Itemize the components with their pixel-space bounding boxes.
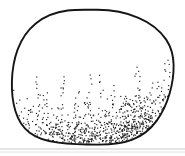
stipple-dot <box>100 139 101 140</box>
stipple-dot <box>53 137 54 138</box>
stipple-dot <box>40 134 41 135</box>
stipple-dot <box>64 140 65 141</box>
stipple-dot <box>155 120 156 121</box>
stipple-dot <box>85 135 86 136</box>
stipple-dot <box>23 123 24 124</box>
stipple-dot <box>142 107 143 108</box>
stipple-dot <box>79 116 80 117</box>
stipple-dot <box>61 132 62 133</box>
stipple-dot <box>88 142 89 143</box>
stipple-dot <box>74 129 75 130</box>
stipple-dot <box>99 142 100 143</box>
stipple-dot <box>59 129 60 130</box>
stipple-dot <box>146 122 147 123</box>
stipple-dot <box>121 106 122 107</box>
stipple-dot <box>57 116 58 117</box>
stipple-dot <box>85 128 86 129</box>
stipple-dot <box>24 108 25 109</box>
stipple-dot <box>134 126 135 127</box>
stipple-dot <box>143 124 144 125</box>
stipple-dot <box>149 99 150 100</box>
stipple-dot <box>88 138 89 139</box>
stipple-dot <box>52 133 53 134</box>
stipple-dot <box>62 104 63 105</box>
stipple-dot <box>51 108 52 109</box>
stipple-dot <box>105 133 106 134</box>
stipple-dot <box>84 130 85 131</box>
stipple-dot <box>136 127 137 128</box>
stipple-dot <box>137 126 138 127</box>
stipple-dot <box>147 106 148 107</box>
stipple-dot <box>114 128 115 129</box>
stipple-dot <box>131 129 132 130</box>
stipple-dot <box>157 110 158 111</box>
stipple-dot <box>116 133 117 134</box>
stipple-dot <box>169 64 170 65</box>
stipple-dot <box>96 124 97 125</box>
stipple-dot <box>146 119 147 120</box>
stipple-dot <box>83 140 84 141</box>
stipple-dot <box>126 121 127 122</box>
stipple-dot <box>122 137 123 138</box>
stipple-dot <box>134 108 135 109</box>
stipple-dot <box>71 139 72 140</box>
stipple-dot <box>92 121 93 122</box>
stipple-dot <box>78 122 79 123</box>
stipple-dot <box>90 78 91 79</box>
stipple-dot <box>131 125 132 126</box>
stipple-dot <box>155 100 156 101</box>
stipple-dot <box>154 123 155 124</box>
stipple-dot <box>78 106 79 107</box>
stipple-dot <box>35 124 36 125</box>
stipple-dot <box>44 113 45 114</box>
stipple-dot <box>38 126 39 127</box>
stipple-dot <box>36 84 37 85</box>
stipple-dot <box>80 138 81 139</box>
stipple-dot <box>69 133 70 134</box>
stipple-dot <box>39 104 40 105</box>
stipple-dot <box>158 86 159 87</box>
stipple-dot <box>102 110 103 111</box>
stipple-dot <box>166 101 167 102</box>
stipple-dot <box>121 141 122 142</box>
stipple-dot <box>59 134 60 135</box>
stipple-dot <box>125 134 126 135</box>
stipple-dot <box>84 123 85 124</box>
stipple-dot <box>162 110 163 111</box>
stipple-dot <box>148 114 149 115</box>
stipple-dot <box>94 129 95 130</box>
stipple-dot <box>74 141 75 142</box>
stipple-dot <box>50 122 51 123</box>
stipple-dot <box>113 127 114 128</box>
stipple-dot <box>94 127 95 128</box>
stipple-dot <box>78 129 79 130</box>
stipple-dot <box>115 118 116 119</box>
stipple-dot <box>49 133 50 134</box>
stipple-dot <box>23 118 24 119</box>
stipple-dot <box>145 112 146 113</box>
figure-container: Stippled rounded blob illustration Hand-… <box>0 0 185 156</box>
stipple-dot <box>55 124 56 125</box>
stipple-dot <box>126 136 127 137</box>
stipple-dot <box>62 92 63 93</box>
stipple-dot <box>124 133 125 134</box>
stipple-dot <box>134 119 135 120</box>
stipple-dot <box>145 109 146 110</box>
stipple-dot <box>136 106 137 107</box>
stipple-dot <box>144 119 145 120</box>
stipple-dot <box>150 118 151 119</box>
stipple-dot <box>111 119 112 120</box>
stipple-dot <box>69 127 70 128</box>
stipple-dot <box>30 112 31 113</box>
stipple-dot <box>106 133 107 134</box>
stipple-dot <box>106 111 107 112</box>
stipple-dot <box>89 128 90 129</box>
stipple-dot <box>58 126 59 127</box>
stipple-dot <box>44 104 45 105</box>
stipple-dot <box>113 125 114 126</box>
stipple-dot <box>59 137 60 138</box>
stipple-dot <box>162 108 163 109</box>
stipple-dot <box>28 123 29 124</box>
stipple-dot <box>40 95 41 96</box>
stipple-dot <box>130 106 131 107</box>
